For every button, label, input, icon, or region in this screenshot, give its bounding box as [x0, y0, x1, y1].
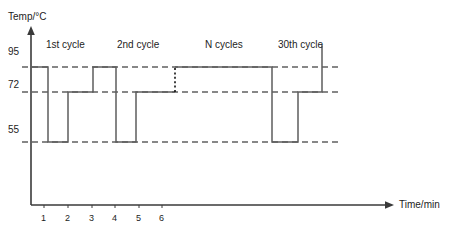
annotation-30th-cycle: 30th cycle	[278, 40, 323, 50]
y-axis-arrowhead	[27, 26, 35, 35]
x-axis-title: Time/min	[399, 200, 440, 210]
annotation-2nd-cycle: 2nd cycle	[117, 40, 159, 50]
x-tick-label-5: 5	[136, 213, 141, 223]
y-tick-label-72: 72	[8, 80, 19, 90]
temperature-trace-cycles-1-2	[31, 67, 175, 142]
y-tick-label-95: 95	[8, 47, 19, 57]
x-tick-label-6: 6	[159, 213, 164, 223]
x-tick-label-1: 1	[41, 213, 46, 223]
x-tick-label-4: 4	[112, 213, 117, 223]
annotation-1st-cycle: 1st cycle	[46, 40, 85, 50]
y-axis-title: Temp/°C	[8, 12, 46, 22]
thermal-profile-plot	[0, 0, 452, 234]
x-axis-arrowhead	[385, 201, 394, 209]
x-tick-label-2: 2	[65, 213, 70, 223]
annotation-n-cycles: N cycles	[205, 40, 243, 50]
temperature-trace-cycles-n-30	[175, 45, 322, 142]
x-tick-label-3: 3	[89, 213, 94, 223]
y-tick-label-55: 55	[8, 125, 19, 135]
figure-canvas: Temp/°C Time/min 95 72 55 1 2 3 4 5 6 1s…	[0, 0, 452, 234]
temperature-trace	[31, 45, 322, 142]
